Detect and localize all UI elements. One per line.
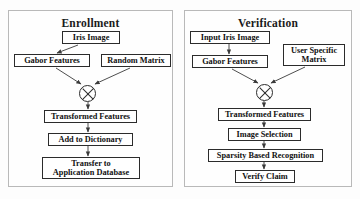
xor-operator-enrollment bbox=[79, 85, 96, 102]
node-user-specific-matrix: User Specific Matrix bbox=[283, 44, 345, 66]
node-gabor-features-enrollment: Gabor Features bbox=[14, 54, 90, 67]
diagram-canvas: Enrollment Iris Image Gabor Features Ran… bbox=[0, 0, 360, 199]
node-transfer-to-application-database: Transfer to Application Database bbox=[42, 157, 140, 179]
node-sparsity-based-recognition: Sparsity Based Recognition bbox=[208, 149, 323, 162]
node-transformed-features-enrollment: Transformed Features bbox=[44, 110, 137, 123]
node-image-selection: Image Selection bbox=[228, 128, 301, 141]
node-iris-image: Iris Image bbox=[62, 31, 120, 44]
node-input-iris-image: Input Iris Image bbox=[190, 31, 270, 44]
node-gabor-features-verification: Gabor Features bbox=[192, 55, 268, 68]
node-random-matrix: Random Matrix bbox=[101, 54, 171, 67]
xor-operator-verification bbox=[256, 84, 273, 101]
node-add-to-dictionary: Add to Dictionary bbox=[48, 133, 133, 146]
node-verify-claim: Verify Claim bbox=[235, 170, 295, 183]
panel-title-enrollment: Enrollment bbox=[9, 17, 172, 29]
panel-title-verification: Verification bbox=[185, 17, 351, 29]
node-transformed-features-verification: Transformed Features bbox=[218, 108, 311, 121]
